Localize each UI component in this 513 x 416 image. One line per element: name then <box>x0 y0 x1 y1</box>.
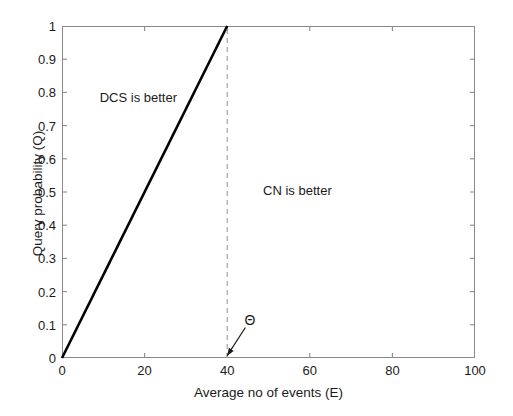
y-axis-tick-labels: 00.10.20.30.40.50.60.70.80.91 <box>0 0 56 416</box>
y-tick-label: 0.1 <box>38 318 56 331</box>
y-tick-label: 0 <box>49 352 56 365</box>
x-tick-label: 20 <box>137 364 151 377</box>
y-tick-label: 0.9 <box>38 53 56 66</box>
x-tick-label: 0 <box>58 364 65 377</box>
x-axis-tick-labels: 020406080100 <box>0 364 513 384</box>
figure-canvas: 00.10.20.30.40.50.60.70.80.91 0204060801… <box>0 0 513 416</box>
x-tick-label: 100 <box>464 364 486 377</box>
x-tick-label: 80 <box>385 364 399 377</box>
y-axis-title: Query probability (Q) <box>30 94 45 294</box>
x-axis-title: Average no of events (E) <box>62 385 475 400</box>
theta-symbol: Θ <box>244 312 255 328</box>
dcs-region-label: DCS is better <box>100 90 177 105</box>
cn-region-label: CN is better <box>263 183 332 198</box>
x-tick-label: 60 <box>303 364 317 377</box>
y-tick-label: 1 <box>49 20 56 33</box>
x-tick-label: 40 <box>220 364 234 377</box>
